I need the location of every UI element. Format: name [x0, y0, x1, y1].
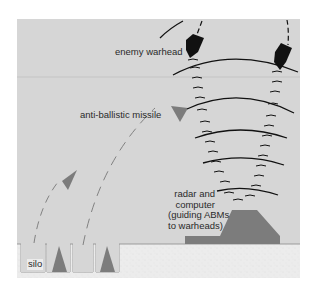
abm-defense-diagram: enemy warhead anti-ballistic missile rad… [0, 0, 318, 294]
silo-label: silo [27, 259, 43, 270]
radar-label-line: radar and [168, 189, 215, 200]
radar-label-line: (guiding ABMs [168, 210, 215, 221]
enemy-warhead-label: enemy warhead [115, 47, 183, 58]
anti-ballistic-missile-label: anti-ballistic missile [80, 110, 161, 121]
radar-label-line: to warheads) [168, 221, 215, 232]
radar-computer-label: radar and computer (guiding ABMs to warh… [168, 189, 215, 231]
